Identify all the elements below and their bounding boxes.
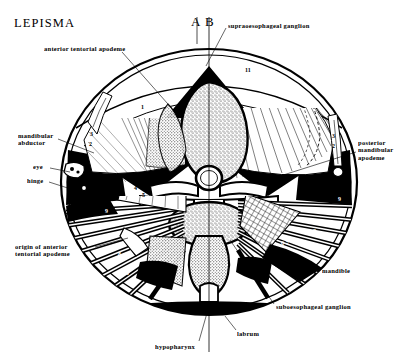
label-supraoesophageal-ganglion: supraoesophageal ganglion [228, 22, 310, 29]
label-posterior-mandibular-apodeme: posterior mandibular apodeme [358, 139, 394, 161]
label-origin-of-anterior-tentorial-apodeme: origin of anterior tentorial apodeme [15, 243, 70, 258]
muscle-number-5: 5 [142, 192, 145, 198]
leader-labrum [225, 316, 236, 330]
muscle-number-3-right: 3 [332, 133, 335, 139]
muscle-number-2-right: 2 [332, 143, 335, 149]
muscle-number-3-left: 3 [90, 131, 93, 137]
muscle-number-8-left: 8 [118, 251, 121, 257]
muscle-number-11: 11 [245, 67, 251, 73]
muscle-number-8-right: 8 [313, 228, 316, 234]
section-marker-a: A [191, 14, 200, 30]
label-hinge: hinge [27, 177, 43, 184]
muscle-number-6-7: 6-7 [281, 240, 289, 246]
head-section-drawing [0, 0, 419, 362]
muscle-number-1: 1 [141, 104, 144, 110]
anatomical-figure: LEPISMA A B anterior tentorial apodeme s… [0, 0, 419, 362]
label-suboesophageal-ganglion: suboesophageal ganglion [276, 303, 351, 310]
label-eye: eye [33, 163, 43, 170]
muscle-number-9-left: 9 [105, 208, 108, 214]
label-hypopharynx: hypopharynx [155, 343, 195, 350]
label-anterior-tentorial-apodeme: anterior tentorial apodeme [44, 45, 125, 52]
muscle-number-4: 4 [134, 185, 137, 191]
label-mandibular-abductor: mandibular abductor [18, 132, 54, 147]
section-marker-b: B [205, 14, 214, 30]
eye [64, 162, 84, 178]
muscle-number-10: 10 [123, 270, 129, 276]
figure-title: LEPISMA [14, 16, 75, 31]
muscle-number-9-right: 9 [338, 196, 341, 202]
muscle-number-2-left: 2 [89, 141, 92, 147]
label-labrum: labrum [237, 330, 259, 337]
label-mandible: mandible [322, 267, 350, 274]
